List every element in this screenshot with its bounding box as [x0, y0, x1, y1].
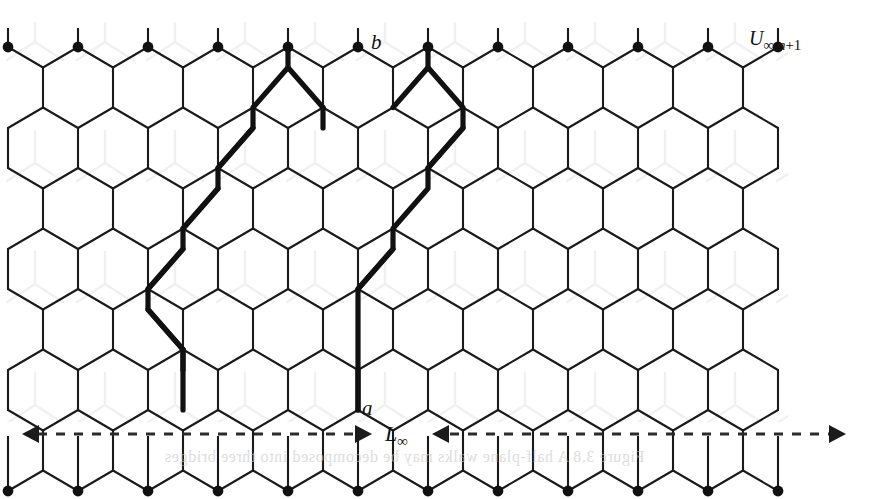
figure-container: b a L∞ U∞,n+1 Figure 3.8 A half-plane wa… [0, 0, 869, 499]
width-label-L-infinity: L∞ [385, 421, 408, 450]
width-label-subscript: ∞ [397, 433, 408, 449]
vertex-label-b: b [371, 30, 382, 55]
vertex-label-a: a [362, 396, 373, 421]
region-label-U-infinity-n-plus-1: U∞,n+1 [749, 27, 801, 55]
region-label-base: U [749, 27, 763, 49]
region-label-subscript: ∞,n+1 [763, 35, 801, 54]
width-label-base: L [385, 421, 397, 446]
hexagonal-lattice-figure [0, 0, 869, 499]
